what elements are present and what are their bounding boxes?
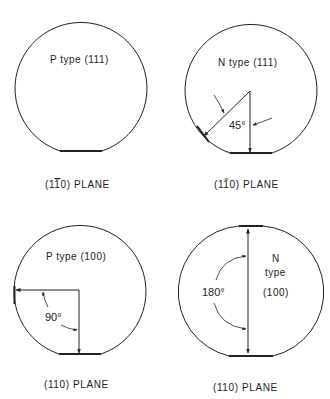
wafer-p-type-111: P type (111) (110) PLANE bbox=[15, 22, 147, 190]
secondary-flat bbox=[197, 126, 209, 142]
wafer-type-label: P type (111) bbox=[50, 54, 109, 65]
wafer-p-type-100: P type (100) 90° (110) PLANE bbox=[14, 225, 146, 390]
wafer-outline bbox=[15, 22, 147, 151]
wafer-type-label-line2: type bbox=[265, 267, 286, 278]
angle-arc bbox=[61, 325, 77, 330]
wafer-flat-diagram: P type (111) (110) PLANE N type (111) 45… bbox=[0, 0, 330, 399]
angle-arc bbox=[216, 256, 246, 280]
wafer-outline bbox=[185, 24, 317, 153]
angle-label: 90° bbox=[45, 311, 62, 323]
flat-plane-caption: (110) PLANE bbox=[213, 382, 278, 393]
wafer-n-type-111: N type (111) 45° (110) PLANE bbox=[185, 24, 317, 190]
flat-plane-caption: (110) PLANE bbox=[214, 179, 279, 190]
angle-label: 45° bbox=[229, 119, 246, 131]
wafer-type-label-line1: N bbox=[272, 253, 280, 264]
wafer-type-label: P type (100) bbox=[46, 251, 106, 262]
flat-plane-caption: (110) PLANE bbox=[45, 179, 110, 190]
angle-arc bbox=[214, 303, 246, 329]
angle-arc bbox=[43, 292, 48, 307]
wafer-type-label-line3: (100) bbox=[263, 287, 289, 298]
angle-arc bbox=[214, 95, 224, 113]
wafer-type-label: N type (111) bbox=[218, 57, 278, 68]
wafer-n-type-100: 180° N type (100) (110) PLANE bbox=[178, 226, 323, 393]
angle-arc bbox=[253, 118, 272, 125]
angle-label: 180° bbox=[202, 286, 225, 298]
flat-plane-caption: (110) PLANE bbox=[44, 379, 109, 390]
